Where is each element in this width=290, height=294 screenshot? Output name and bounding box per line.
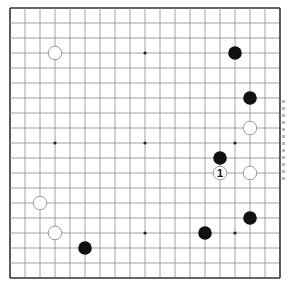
star-point: [53, 141, 56, 144]
black-stone: [213, 151, 227, 165]
margin-bleed-text: [281, 100, 287, 200]
star-point: [233, 231, 236, 234]
black-stone: [228, 46, 242, 60]
move-number-label: 1: [217, 167, 223, 179]
white-stone: [33, 196, 47, 210]
star-point: [143, 141, 146, 144]
white-stone: [243, 166, 257, 180]
go-board[interactable]: 1: [0, 0, 290, 294]
star-point: [143, 231, 146, 234]
white-stone: 1: [213, 166, 227, 180]
black-stone: [243, 91, 257, 105]
star-point: [233, 141, 236, 144]
white-stone: [48, 46, 62, 60]
white-stone: [243, 121, 257, 135]
black-stone: [78, 241, 92, 255]
black-stone: [198, 226, 212, 240]
white-stone: [48, 226, 62, 240]
star-point: [143, 51, 146, 54]
black-stone: [243, 211, 257, 225]
